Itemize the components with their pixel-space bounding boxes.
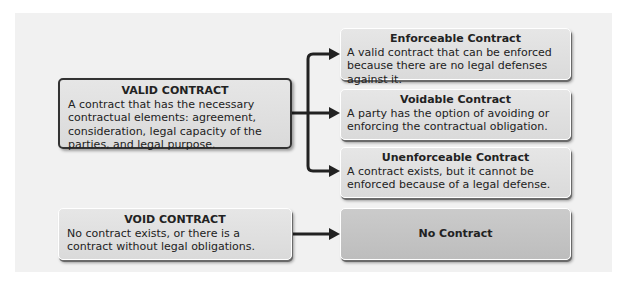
arrow-unenforceable-icon — [329, 165, 340, 177]
voidable-contract-box: Voidable Contract A party has the option… — [340, 89, 571, 140]
void-contract-box: VOID CONTRACT No contract exists, or the… — [58, 208, 292, 260]
enforceable-contract-title: Enforceable Contract — [347, 32, 564, 46]
arrow-no-contract-icon — [329, 228, 340, 240]
no-contract-title: No Contract — [419, 227, 493, 241]
arrow-enforceable-icon — [329, 48, 340, 60]
voidable-contract-title: Voidable Contract — [347, 93, 564, 107]
voidable-contract-description: A party has the option of avoiding or en… — [347, 107, 564, 134]
void-contract-title: VOID CONTRACT — [67, 213, 283, 227]
unenforceable-contract-description: A contract exists, but it cannot be enfo… — [347, 165, 564, 192]
valid-contract-title: VALID CONTRACT — [68, 84, 282, 98]
valid-contract-description: A contract that has the necessary contra… — [68, 98, 282, 152]
arrow-voidable-icon — [329, 107, 340, 119]
enforceable-contract-description: A valid contract that can be enforced be… — [347, 46, 564, 87]
no-contract-box: No Contract — [340, 208, 571, 260]
unenforceable-contract-box: Unenforceable Contract A contract exists… — [340, 147, 571, 198]
unenforceable-contract-title: Unenforceable Contract — [347, 151, 564, 165]
enforceable-contract-box: Enforceable Contract A valid contract th… — [340, 28, 571, 80]
valid-contract-box: VALID CONTRACT A contract that has the n… — [58, 78, 292, 149]
void-contract-description: No contract exists, or there is a contra… — [67, 227, 283, 254]
